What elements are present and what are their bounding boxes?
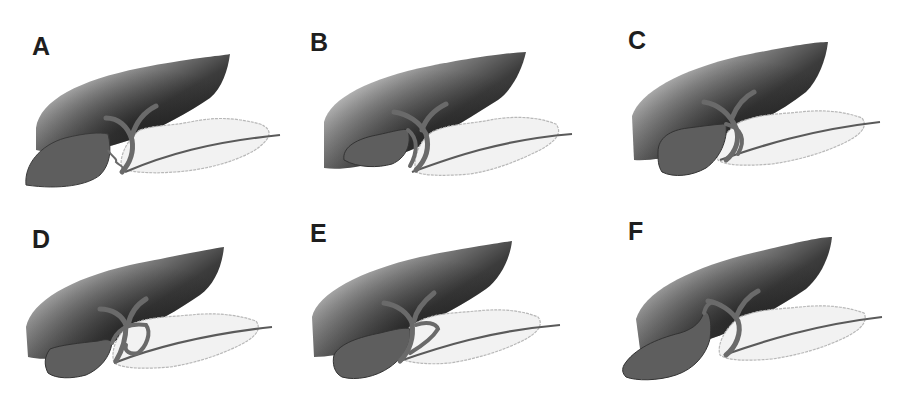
panel-f: F — [600, 197, 900, 394]
panel-d: D — [0, 197, 300, 394]
panel-b: B — [300, 0, 600, 197]
anatomy-illustration — [600, 197, 900, 394]
panel-c: C — [600, 0, 900, 197]
anatomy-illustration — [0, 0, 300, 197]
panel-e: E — [300, 197, 600, 394]
anatomy-illustration — [300, 197, 600, 394]
panel-a: A — [0, 0, 300, 197]
anatomy-illustration — [0, 197, 300, 394]
cystic-duct — [108, 150, 123, 170]
anatomy-illustration — [300, 0, 600, 197]
anatomy-illustration — [600, 0, 900, 197]
